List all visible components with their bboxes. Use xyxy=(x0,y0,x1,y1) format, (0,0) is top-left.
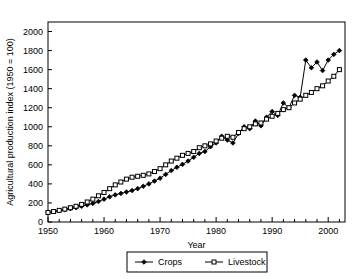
data-point-marker xyxy=(102,190,106,194)
data-point-marker xyxy=(130,175,134,179)
y-tick-label: 1800 xyxy=(23,46,43,56)
data-point-marker xyxy=(298,97,302,101)
data-point-marker xyxy=(337,68,341,72)
data-point-marker xyxy=(242,127,246,131)
data-point-marker xyxy=(164,163,168,167)
data-point-marker xyxy=(52,210,56,214)
data-point-marker xyxy=(113,183,117,187)
data-point-marker xyxy=(96,194,100,198)
data-point-marker xyxy=(85,200,89,204)
data-point-marker xyxy=(203,144,207,148)
data-point-marker xyxy=(293,101,297,105)
x-tick-label: 1990 xyxy=(262,226,282,236)
data-point-marker xyxy=(265,117,269,121)
data-point-marker xyxy=(80,202,84,206)
legend-label: Crops xyxy=(158,257,183,267)
data-point-marker xyxy=(68,206,72,210)
data-point-marker xyxy=(315,87,319,91)
data-point-marker xyxy=(276,111,280,115)
data-point-marker xyxy=(152,170,156,174)
data-point-marker xyxy=(63,207,67,211)
data-point-marker xyxy=(259,121,263,125)
data-point-marker xyxy=(231,135,235,139)
data-point-marker xyxy=(147,172,151,176)
y-axis-title: Agricultural production index (1950 = 10… xyxy=(5,38,15,205)
data-point-marker xyxy=(309,90,313,94)
y-tick-label: 2000 xyxy=(23,27,43,37)
data-point-marker xyxy=(91,197,95,201)
y-tick-label: 1600 xyxy=(23,65,43,75)
data-point-marker xyxy=(180,153,184,157)
y-tick-label: 800 xyxy=(28,141,43,151)
data-point-marker xyxy=(124,177,128,181)
data-point-marker xyxy=(287,106,291,110)
data-point-marker xyxy=(253,122,257,126)
data-point-marker xyxy=(136,174,140,178)
agricultural-production-index-line-chart: 0200400600800100012001400160018002000 19… xyxy=(0,0,358,279)
chart-background xyxy=(0,0,358,279)
chart-legend: CropsLivestock xyxy=(127,252,267,272)
legend-label: Livestock xyxy=(228,257,266,267)
y-tick-label: 400 xyxy=(28,179,43,189)
data-point-marker xyxy=(248,125,252,129)
data-point-marker xyxy=(169,159,173,163)
data-point-marker xyxy=(321,84,325,88)
data-point-marker xyxy=(237,130,241,134)
x-tick-label: 1960 xyxy=(94,226,114,236)
data-point-marker xyxy=(209,142,213,146)
y-tick-label: 1400 xyxy=(23,84,43,94)
data-point-marker xyxy=(186,151,190,155)
data-point-marker xyxy=(225,134,229,138)
x-tick-label: 1970 xyxy=(150,226,170,236)
y-tick-label: 1000 xyxy=(23,122,43,132)
data-point-marker xyxy=(197,146,201,150)
x-axis-title: Year xyxy=(187,240,205,250)
y-tick-label: 600 xyxy=(28,160,43,170)
chart-figure: 0200400600800100012001400160018002000 19… xyxy=(0,0,358,279)
data-point-marker xyxy=(326,79,330,83)
data-point-marker xyxy=(141,173,145,177)
data-point-marker xyxy=(57,208,61,212)
x-tick-label: 2000 xyxy=(318,226,338,236)
data-point-marker xyxy=(214,139,218,143)
data-point-marker xyxy=(108,187,112,191)
legend-marker xyxy=(212,260,216,264)
data-point-marker xyxy=(270,114,274,118)
data-point-marker xyxy=(281,108,285,112)
x-tick-label: 1950 xyxy=(38,226,58,236)
x-tick-label: 1980 xyxy=(206,226,226,236)
data-point-marker xyxy=(74,204,78,208)
data-point-marker xyxy=(175,156,179,160)
data-point-marker xyxy=(158,167,162,171)
data-point-marker xyxy=(119,180,123,184)
y-tick-label: 200 xyxy=(28,198,43,208)
data-point-marker xyxy=(304,93,308,97)
y-tick-label: 1200 xyxy=(23,103,43,113)
data-point-marker xyxy=(46,210,50,214)
data-point-marker xyxy=(192,150,196,154)
data-point-marker xyxy=(332,74,336,78)
data-point-marker xyxy=(220,136,224,140)
